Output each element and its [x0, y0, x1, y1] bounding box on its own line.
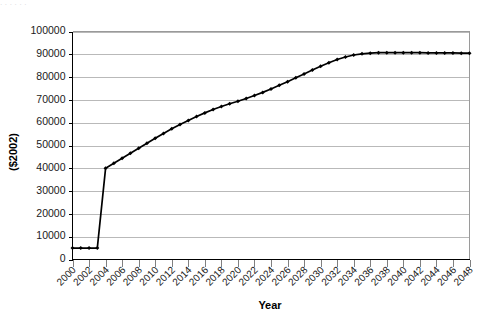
y-tick-label-50000: 50000	[36, 138, 65, 150]
data-point-marker	[79, 246, 83, 250]
y-tick-label-0: 0	[60, 252, 66, 264]
y-axis-title: ($2002)	[7, 133, 19, 171]
data-point-marker	[360, 52, 364, 56]
y-axis-line	[73, 32, 470, 260]
y-tick-label-60000: 60000	[36, 115, 65, 127]
data-point-marker	[236, 99, 240, 103]
gridlines	[73, 33, 470, 238]
page-bleed-text: . . . . . .	[0, 0, 27, 7]
y-tick-label-80000: 80000	[36, 70, 65, 82]
data-point-marker	[352, 53, 356, 57]
y-tick-label-90000: 90000	[36, 47, 65, 59]
y-axis-tick-labels: 0100002000030000400005000060000700008000…	[30, 24, 65, 264]
page-bleed-artifact: . . . . . .	[0, 0, 489, 9]
plot-frame	[73, 32, 470, 260]
y-tick-label-40000: 40000	[36, 161, 65, 173]
y-tick-label-30000: 30000	[36, 184, 65, 196]
x-axis-title: Year	[258, 299, 282, 311]
x-tick-label-2048: 2048	[451, 264, 475, 288]
data-point-marker	[87, 246, 91, 250]
data-point-marker	[343, 55, 347, 59]
line-chart: . . . . . . 0100002000030000400005000060…	[0, 0, 489, 315]
y-tick-label-10000: 10000	[36, 229, 65, 241]
data-point-marker	[71, 246, 75, 250]
series-path	[73, 53, 470, 248]
data-point-marker	[228, 102, 232, 106]
y-tick-label-70000: 70000	[36, 93, 65, 105]
plot-area-border	[73, 32, 470, 260]
data-series	[71, 51, 472, 250]
y-axis-ticks	[69, 33, 73, 261]
x-axis-ticks	[74, 260, 471, 267]
data-point-marker	[95, 246, 99, 250]
chart-canvas: 0100002000030000400005000060000700008000…	[0, 0, 489, 315]
y-tick-label-100000: 100000	[30, 24, 65, 36]
x-axis-tick-labels: 2000200220042006200820102012201420162018…	[54, 264, 475, 288]
y-tick-label-20000: 20000	[36, 207, 65, 219]
